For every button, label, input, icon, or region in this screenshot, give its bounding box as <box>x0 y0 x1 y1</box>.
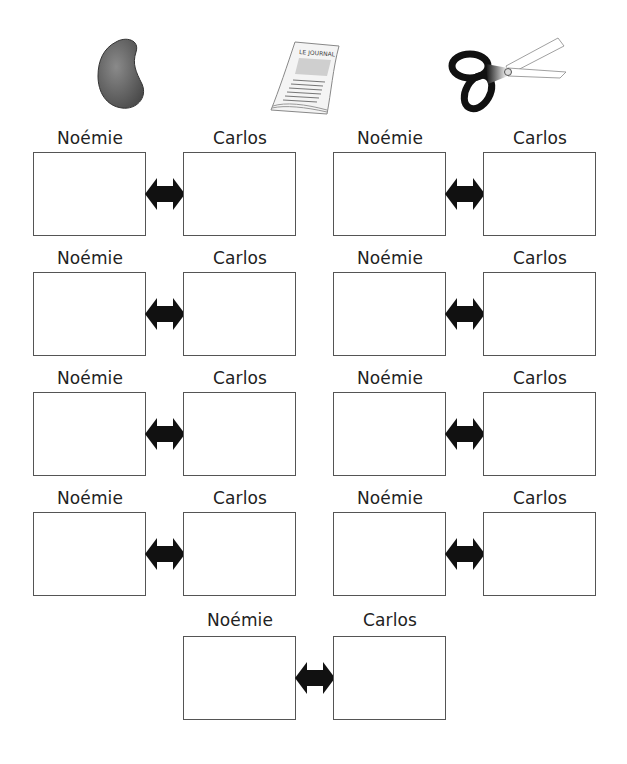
bean-icon <box>96 38 148 110</box>
name-label-left: Noémie <box>180 610 300 630</box>
scissors-icon <box>448 36 570 116</box>
double-arrow-icon <box>295 660 335 696</box>
double-arrow-icon <box>445 296 485 332</box>
answer-box-right[interactable] <box>483 272 596 356</box>
double-arrow-icon <box>145 416 185 452</box>
answer-box-left[interactable] <box>33 392 146 476</box>
name-label-left: Noémie <box>30 488 150 508</box>
name-label-left: Noémie <box>330 368 450 388</box>
answer-box-right[interactable] <box>483 512 596 596</box>
name-label-right: Carlos <box>480 128 600 148</box>
newspaper-icon: LE JOURNAL <box>265 38 345 120</box>
answer-box-left[interactable] <box>333 512 446 596</box>
answer-box-left[interactable] <box>183 636 296 720</box>
answer-box-left[interactable] <box>33 512 146 596</box>
name-label-right: Carlos <box>180 248 300 268</box>
name-label-right: Carlos <box>180 368 300 388</box>
name-label-right: Carlos <box>330 610 450 630</box>
name-label-left: Noémie <box>30 128 150 148</box>
answer-box-left[interactable] <box>333 152 446 236</box>
name-label-left: Noémie <box>330 488 450 508</box>
double-arrow-icon <box>145 176 185 212</box>
double-arrow-icon <box>445 536 485 572</box>
name-label-right: Carlos <box>480 488 600 508</box>
answer-box-right[interactable] <box>483 392 596 476</box>
name-label-right: Carlos <box>180 488 300 508</box>
name-label-left: Noémie <box>330 128 450 148</box>
answer-box-right[interactable] <box>183 152 296 236</box>
name-label-right: Carlos <box>480 368 600 388</box>
name-label-right: Carlos <box>180 128 300 148</box>
answer-box-right[interactable] <box>483 152 596 236</box>
name-label-left: Noémie <box>330 248 450 268</box>
name-label-left: Noémie <box>30 368 150 388</box>
name-label-left: Noémie <box>30 248 150 268</box>
answer-box-right[interactable] <box>333 636 446 720</box>
double-arrow-icon <box>145 296 185 332</box>
name-label-right: Carlos <box>480 248 600 268</box>
answer-box-left[interactable] <box>333 392 446 476</box>
double-arrow-icon <box>445 416 485 452</box>
answer-box-right[interactable] <box>183 392 296 476</box>
double-arrow-icon <box>145 536 185 572</box>
answer-box-left[interactable] <box>33 152 146 236</box>
answer-box-right[interactable] <box>183 272 296 356</box>
answer-box-left[interactable] <box>333 272 446 356</box>
answer-box-right[interactable] <box>183 512 296 596</box>
answer-box-left[interactable] <box>33 272 146 356</box>
double-arrow-icon <box>445 176 485 212</box>
